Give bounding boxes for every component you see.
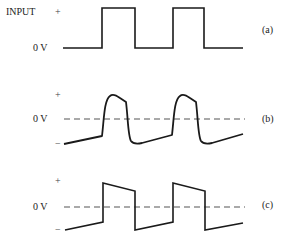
input-square-wave <box>63 8 243 48</box>
waveform-canvas <box>0 0 282 246</box>
